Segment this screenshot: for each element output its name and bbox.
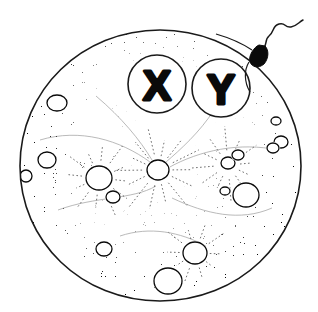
- vacuole: [267, 143, 279, 153]
- x-chromosome: X: [128, 55, 186, 113]
- vacuole: [271, 117, 281, 125]
- y-chromosome: Y: [192, 59, 250, 117]
- vacuole: [38, 152, 56, 168]
- ovum-fertilization-diagram: Ovum with X and Y chromosome markers and…: [0, 0, 318, 312]
- x-chromosome-label: X: [143, 62, 171, 109]
- vacuole: [183, 242, 207, 264]
- vacuole: [47, 95, 67, 111]
- vacuole: [20, 170, 32, 182]
- vacuole: [232, 150, 244, 160]
- vacuole: [96, 242, 112, 256]
- vacuole: [233, 183, 259, 207]
- vacuole: [154, 268, 182, 294]
- vacuole: [220, 187, 230, 195]
- vacuole: [106, 191, 120, 203]
- vacuole: [86, 166, 112, 190]
- y-chromosome-label: Y: [207, 66, 235, 113]
- vacuole: [147, 160, 169, 180]
